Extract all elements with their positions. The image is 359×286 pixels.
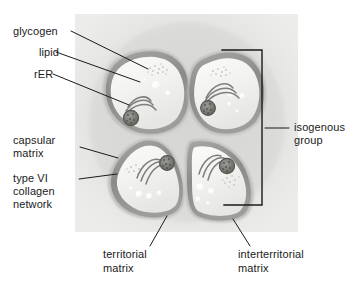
label-glycogen: glycogen xyxy=(13,25,58,38)
nucleus xyxy=(219,158,234,173)
label-lipid: lipid xyxy=(39,46,59,59)
label-rer: rER xyxy=(34,68,53,81)
cytoplasm xyxy=(194,58,259,129)
nucleus xyxy=(201,101,216,116)
chondrocyte-top-right xyxy=(187,51,266,136)
nucleus xyxy=(160,156,175,171)
nucleus xyxy=(123,110,138,125)
